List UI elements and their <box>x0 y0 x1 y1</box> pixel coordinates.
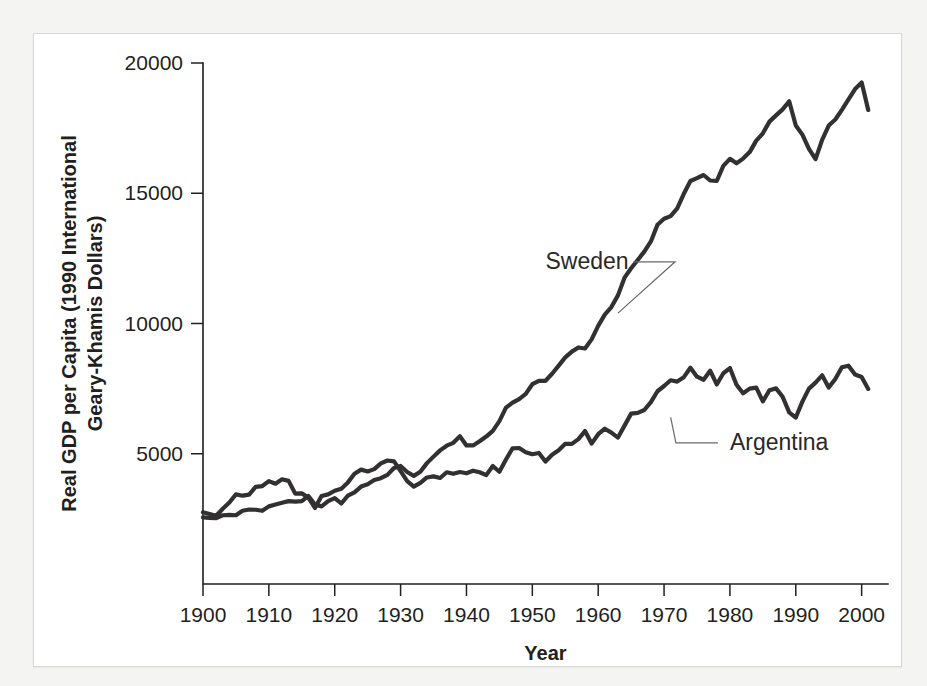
axes: 5000100001500020000190019101920193019401… <box>125 51 888 626</box>
x-tick-label: 1990 <box>772 603 819 626</box>
axis-spine <box>203 63 888 584</box>
annotation-label-sweden: Sweden <box>546 248 629 274</box>
y-tick-label: 20000 <box>125 51 183 74</box>
x-tick-label: 1980 <box>707 603 754 626</box>
x-tick-label: 1970 <box>641 603 688 626</box>
x-tick-label: 1950 <box>509 603 556 626</box>
line-chart: 5000100001500020000190019101920193019401… <box>34 34 903 668</box>
figure-card: 5000100001500020000190019101920193019401… <box>33 33 902 667</box>
x-axis-title: Year <box>524 642 566 664</box>
y-tick-label: 10000 <box>125 312 183 335</box>
x-tick-label: 1960 <box>575 603 622 626</box>
x-tick-label: 1900 <box>180 603 227 626</box>
annotation-label-argentina: Argentina <box>730 429 829 455</box>
y-tick-label: 5000 <box>136 442 183 465</box>
x-tick-label: 1920 <box>311 603 358 626</box>
x-tick-label: 1910 <box>246 603 293 626</box>
series-annotations: SwedenArgentina <box>546 248 829 455</box>
x-tick-label: 1940 <box>443 603 490 626</box>
x-tick-label: 1930 <box>377 603 424 626</box>
y-axis-title-line-2: Geary-Khamis Dollars) <box>84 216 106 432</box>
x-tick-label: 2000 <box>838 603 885 626</box>
annotation-leader-argentina <box>671 417 718 443</box>
y-tick-label: 15000 <box>125 181 183 204</box>
y-axis-title-line-1: Real GDP per Capita (1990 International <box>58 135 80 511</box>
